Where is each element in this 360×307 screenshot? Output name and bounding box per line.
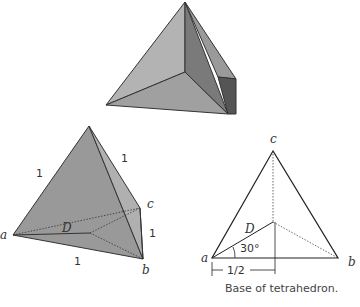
half-length-label: 1/2 (227, 264, 245, 277)
edge-label-left: 1 (36, 167, 43, 180)
vertex-label-D: D (61, 221, 72, 235)
base-vertex-label-a: a (201, 251, 208, 265)
base-caption: Base of tetrahedron. (225, 282, 338, 295)
base-diagram: 1/2 30° D a b c Base of tetrahedron. (201, 132, 356, 295)
figure-canvas: 1 1 1 1 a b c D 1/2 30° D a b c Base of … (0, 0, 360, 307)
vertex-label-a: a (0, 228, 7, 242)
angle-label: 30° (240, 242, 260, 255)
base-vertex-label-D: D (244, 222, 255, 236)
base-vertex-label-b: b (348, 255, 356, 269)
vertex-label-b: b (142, 263, 150, 277)
top-tetrahedron (106, 2, 236, 114)
left-tetrahedron: 1 1 1 1 a b c D (0, 126, 156, 277)
vertex-label-c: c (147, 197, 154, 211)
base-vertex-label-c: c (270, 132, 277, 146)
edge-label-ab: 1 (74, 255, 81, 268)
edge-label-cb: 1 (149, 227, 156, 240)
edge-label-right: 1 (121, 152, 128, 165)
